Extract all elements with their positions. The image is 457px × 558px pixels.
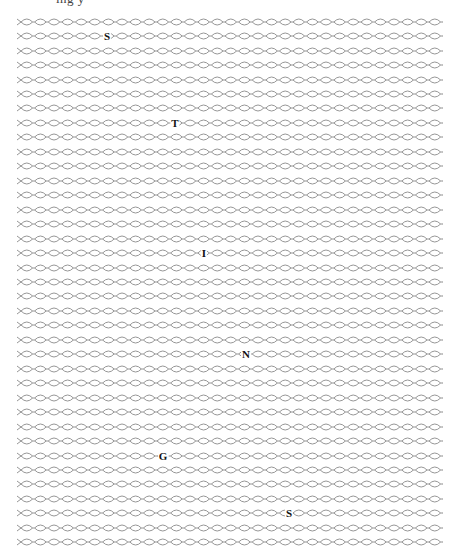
chain-pattern-icon xyxy=(17,75,443,85)
chain-row xyxy=(17,306,441,316)
chain-row xyxy=(17,479,441,489)
chain-row xyxy=(17,465,441,475)
chain-row xyxy=(17,335,441,345)
chain-pattern-icon xyxy=(17,349,443,359)
chain-pattern-icon xyxy=(17,407,443,417)
chain-row xyxy=(17,349,441,359)
chain-row xyxy=(17,60,441,70)
chain-row xyxy=(17,291,441,301)
chain-row xyxy=(17,205,441,215)
chain-row xyxy=(17,132,441,142)
chain-row xyxy=(17,75,441,85)
chain-row xyxy=(17,103,441,113)
chain-row xyxy=(17,364,441,374)
hidden-letter: S xyxy=(285,508,293,519)
hidden-letter: I xyxy=(201,248,207,259)
chain-row xyxy=(17,451,441,461)
hidden-letter: N xyxy=(241,349,251,360)
chain-pattern-icon xyxy=(17,378,443,388)
chain-pattern-icon xyxy=(17,393,443,403)
chain-row xyxy=(17,46,441,56)
chain-row xyxy=(17,118,441,128)
chain-pattern-icon xyxy=(17,89,443,99)
chain-pattern-icon xyxy=(17,118,443,128)
chain-row xyxy=(17,263,441,273)
chain-pattern-icon xyxy=(17,60,443,70)
chain-row xyxy=(17,494,441,504)
chain-letter-puzzle: STINGS xyxy=(0,0,457,558)
chain-row xyxy=(17,17,441,27)
chain-row xyxy=(17,508,441,518)
chain-row xyxy=(17,89,441,99)
chain-row xyxy=(17,31,441,41)
chain-pattern-icon xyxy=(17,451,443,461)
chain-pattern-icon xyxy=(17,436,443,446)
chain-pattern-icon xyxy=(17,364,443,374)
chain-row xyxy=(17,378,441,388)
chain-pattern-icon xyxy=(17,291,443,301)
chain-pattern-icon xyxy=(17,205,443,215)
chain-row xyxy=(17,219,441,229)
chain-row xyxy=(17,234,441,244)
chain-pattern-icon xyxy=(17,248,443,258)
chain-pattern-icon xyxy=(17,31,443,41)
chain-pattern-icon xyxy=(17,494,443,504)
chain-row xyxy=(17,161,441,171)
chain-pattern-icon xyxy=(17,132,443,142)
chain-pattern-icon xyxy=(17,103,443,113)
chain-pattern-icon xyxy=(17,176,443,186)
chain-pattern-icon xyxy=(17,17,443,27)
chain-pattern-icon xyxy=(17,161,443,171)
chain-pattern-icon xyxy=(17,46,443,56)
chain-pattern-icon xyxy=(17,523,443,533)
hidden-letter: G xyxy=(158,450,169,461)
hidden-letter: T xyxy=(170,117,179,128)
chain-pattern-icon xyxy=(17,335,443,345)
chain-row xyxy=(17,176,441,186)
chain-pattern-icon xyxy=(17,320,443,330)
chain-pattern-icon xyxy=(17,277,443,287)
hidden-letter: S xyxy=(103,31,111,42)
chain-row xyxy=(17,190,441,200)
chain-pattern-icon xyxy=(17,422,443,432)
chain-row xyxy=(17,248,441,258)
chain-row xyxy=(17,422,441,432)
chain-pattern-icon xyxy=(17,465,443,475)
chain-row xyxy=(17,393,441,403)
chain-row xyxy=(17,147,441,157)
chain-row xyxy=(17,523,441,533)
chain-pattern-icon xyxy=(17,263,443,273)
chain-pattern-icon xyxy=(17,219,443,229)
chain-row xyxy=(17,277,441,287)
chain-pattern-icon xyxy=(17,234,443,244)
chain-pattern-icon xyxy=(17,190,443,200)
chain-pattern-icon xyxy=(17,537,443,547)
chain-row xyxy=(17,320,441,330)
chain-pattern-icon xyxy=(17,147,443,157)
chain-row xyxy=(17,436,441,446)
chain-pattern-icon xyxy=(17,306,443,316)
chain-pattern-icon xyxy=(17,508,443,518)
chain-pattern-icon xyxy=(17,479,443,489)
chain-row xyxy=(17,537,441,547)
chain-row xyxy=(17,407,441,417)
